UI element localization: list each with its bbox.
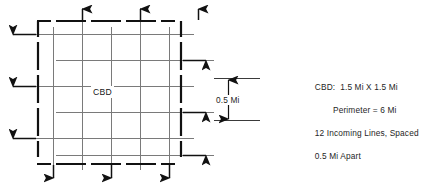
incoming-lines-line1: 12 Incoming Lines, Spaced [315, 128, 419, 138]
cbd-perimeter-line: Perimeter = 6 Mi [305, 105, 398, 117]
cbd-center-label: CBD [91, 86, 114, 98]
incoming-lines-note: 12 Incoming Lines, Spaced 0.5 Mi Apart [305, 116, 419, 174]
incoming-lines-line2: 0.5 Mi Apart [315, 151, 361, 161]
diagram-canvas: CBD 0.5 Mi CBD: 1.5 Mi X 1.5 Mi Perimete… [0, 0, 435, 187]
grid-horizontal-lines [26, 35, 214, 156]
scale-bar-label: 0.5 Mi [214, 95, 242, 105]
cbd-size-line: CBD: 1.5 Mi X 1.5 Mi [315, 82, 398, 92]
